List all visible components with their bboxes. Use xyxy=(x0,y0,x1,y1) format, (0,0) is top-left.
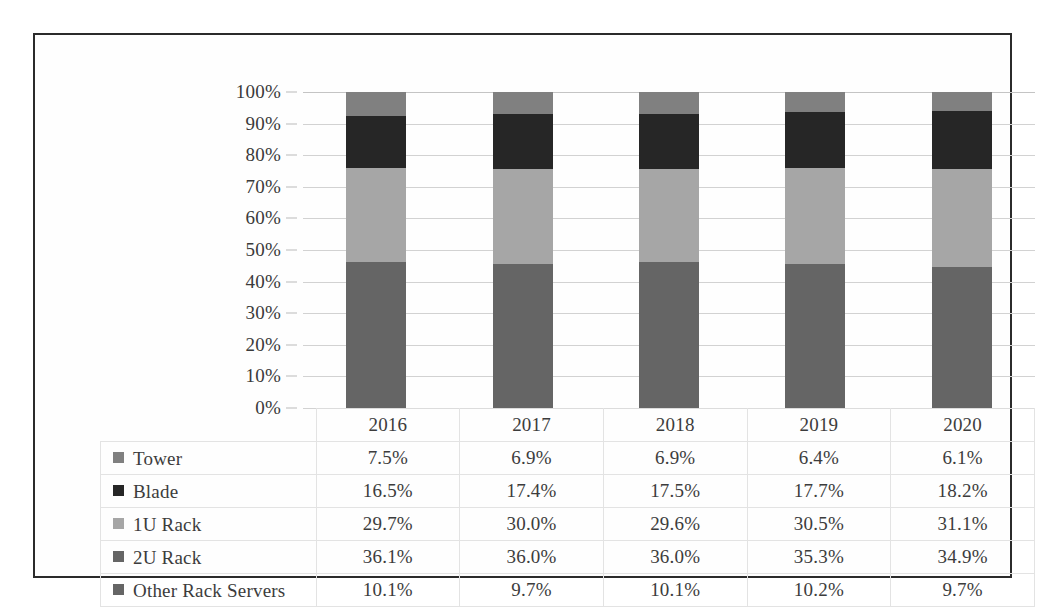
legend-swatch-icon xyxy=(113,452,124,463)
legend-row-header: 2U Rack xyxy=(101,541,317,574)
table-data-cell: 30.5% xyxy=(747,508,891,541)
y-axis-tick-mark xyxy=(286,186,297,187)
bar-segment[interactable] xyxy=(785,264,845,376)
bar-segment[interactable] xyxy=(785,376,845,408)
table-data-cell: 10.2% xyxy=(747,574,891,607)
bar-column-2016[interactable] xyxy=(346,92,406,408)
bar-column-2019[interactable] xyxy=(785,92,845,408)
table-data-cell: 34.9% xyxy=(891,541,1035,574)
bar-segment[interactable] xyxy=(932,267,992,377)
table-header-year: 2018 xyxy=(603,409,747,442)
y-axis-tick-mark xyxy=(286,344,297,345)
bar-segment[interactable] xyxy=(493,377,553,408)
table-row: Other Rack Servers10.1%9.7%10.1%10.2%9.7… xyxy=(101,574,1035,607)
bar-segment[interactable] xyxy=(493,92,553,114)
legend-series-label: 1U Rack xyxy=(133,514,201,535)
table-data-cell: 9.7% xyxy=(460,574,604,607)
y-axis-tick-mark xyxy=(286,218,297,219)
table-data-cell: 6.1% xyxy=(891,442,1035,475)
y-axis-tick-mark xyxy=(286,155,297,156)
table-data-cell: 29.6% xyxy=(603,508,747,541)
table-data-cell: 36.0% xyxy=(603,541,747,574)
plot-area xyxy=(303,92,1035,408)
legend-series-label: 2U Rack xyxy=(133,547,201,568)
bar-segment[interactable] xyxy=(639,114,699,169)
bar-segment[interactable] xyxy=(932,169,992,267)
y-axis-tick-mark xyxy=(286,123,297,124)
bar-segment[interactable] xyxy=(639,92,699,114)
bar-segment[interactable] xyxy=(932,92,992,111)
legend-series-label: Tower xyxy=(133,448,182,469)
bar-column-2018[interactable] xyxy=(639,92,699,408)
y-axis-tick-label: 30% xyxy=(246,302,281,324)
table-header-year: 2019 xyxy=(747,409,891,442)
table-data-cell: 9.7% xyxy=(891,574,1035,607)
bar-segment[interactable] xyxy=(785,112,845,168)
y-axis-tick-label: 60% xyxy=(246,207,281,229)
table-data-cell: 6.9% xyxy=(603,442,747,475)
bar-segment[interactable] xyxy=(785,168,845,264)
y-axis-tick-label: 40% xyxy=(246,271,281,293)
y-axis-tick-label: 50% xyxy=(246,239,281,261)
table-row: 2U Rack36.1%36.0%36.0%35.3%34.9% xyxy=(101,541,1035,574)
legend-row-header: Blade xyxy=(101,475,317,508)
bar-segment[interactable] xyxy=(785,92,845,112)
y-axis-tick-mark xyxy=(286,281,297,282)
table-header-row: 20162017201820192020 xyxy=(101,409,1035,442)
table-data-cell: 7.5% xyxy=(316,442,460,475)
legend-swatch-icon xyxy=(113,551,124,562)
y-axis-tick-mark xyxy=(286,250,297,251)
bar-segment[interactable] xyxy=(493,264,553,378)
table-data-cell: 17.7% xyxy=(747,475,891,508)
y-axis-tick-label: 100% xyxy=(236,81,281,103)
table-row: 1U Rack29.7%30.0%29.6%30.5%31.1% xyxy=(101,508,1035,541)
table-row: Tower7.5%6.9%6.9%6.4%6.1% xyxy=(101,442,1035,475)
bar-segment[interactable] xyxy=(346,116,406,168)
table-data-cell: 18.2% xyxy=(891,475,1035,508)
legend-row-header: Tower xyxy=(101,442,317,475)
table-data-cell: 10.1% xyxy=(603,574,747,607)
y-axis-tick-label: 10% xyxy=(246,365,281,387)
y-axis-tick-mark xyxy=(286,313,297,314)
bar-segment[interactable] xyxy=(346,168,406,262)
bar-segment[interactable] xyxy=(932,377,992,408)
table-row: Blade16.5%17.4%17.5%17.7%18.2% xyxy=(101,475,1035,508)
table-data-cell: 36.0% xyxy=(460,541,604,574)
table-data-cell: 16.5% xyxy=(316,475,460,508)
table-corner-cell xyxy=(101,409,317,442)
bar-segment[interactable] xyxy=(639,376,699,408)
bar-column-2017[interactable] xyxy=(493,92,553,408)
legend-swatch-icon xyxy=(113,485,124,496)
bar-segment[interactable] xyxy=(639,262,699,376)
y-axis-tick-label: 90% xyxy=(246,113,281,135)
table-data-cell: 10.1% xyxy=(316,574,460,607)
bar-segment[interactable] xyxy=(932,111,992,169)
bar-segment[interactable] xyxy=(639,169,699,263)
table-header-year: 2017 xyxy=(460,409,604,442)
chart-figure-frame: 0%10%20%30%40%50%60%70%80%90%100% 201620… xyxy=(33,33,1012,578)
chart-data-table: 20162017201820192020Tower7.5%6.9%6.9%6.4… xyxy=(100,408,1035,607)
table-data-cell: 31.1% xyxy=(891,508,1035,541)
y-axis-tick-mark xyxy=(286,376,297,377)
bar-segment[interactable] xyxy=(346,376,406,408)
bar-segment[interactable] xyxy=(346,262,406,376)
legend-series-label: Blade xyxy=(133,481,178,502)
y-axis-tick-label: 20% xyxy=(246,334,281,356)
legend-series-label: Other Rack Servers xyxy=(133,580,285,601)
bar-segment[interactable] xyxy=(493,169,553,264)
bar-segment[interactable] xyxy=(493,114,553,169)
table-data-cell: 30.0% xyxy=(460,508,604,541)
bar-column-2020[interactable] xyxy=(932,92,992,408)
y-axis: 0%10%20%30%40%50%60%70%80%90%100% xyxy=(185,92,297,408)
legend-row-header: Other Rack Servers xyxy=(101,574,317,607)
table-data-cell: 6.4% xyxy=(747,442,891,475)
y-axis-tick-label: 70% xyxy=(246,176,281,198)
bar-segment[interactable] xyxy=(346,92,406,116)
y-axis-tick-mark xyxy=(286,92,297,93)
table-data-cell: 35.3% xyxy=(747,541,891,574)
table-data-cell: 6.9% xyxy=(460,442,604,475)
legend-row-header: 1U Rack xyxy=(101,508,317,541)
table-data-cell: 36.1% xyxy=(316,541,460,574)
data-table-body: 20162017201820192020Tower7.5%6.9%6.9%6.4… xyxy=(101,409,1035,607)
table-data-cell: 29.7% xyxy=(316,508,460,541)
